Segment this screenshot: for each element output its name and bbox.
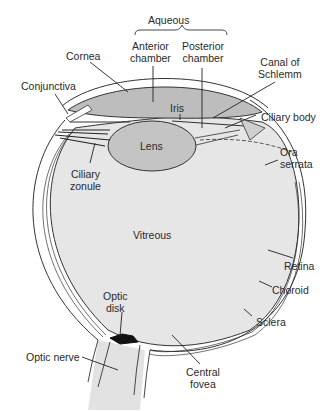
label-vitreous: Vitreous xyxy=(133,229,171,241)
label-sclera: Sclera xyxy=(256,316,286,328)
label-posterior-chamber: Posteriorchamber xyxy=(182,40,224,64)
optic-nerve-outer-right xyxy=(144,350,150,398)
label-aqueous: Aqueous xyxy=(148,14,189,26)
label-zonule-line1: Ciliary xyxy=(71,168,100,180)
label-cornea: Cornea xyxy=(66,50,100,62)
leader-cornea xyxy=(90,62,128,92)
aqueous-brace xyxy=(135,25,227,35)
aqueous-chamber xyxy=(68,87,262,118)
label-choroid: Choroid xyxy=(272,284,309,296)
label-lens: Lens xyxy=(140,140,163,152)
label-posterior-chamber-line1: Posterior xyxy=(182,40,224,52)
label-conjunctiva: Conjunctiva xyxy=(21,80,76,92)
label-canal-of-schlemm: Canal ofSchlemm xyxy=(258,56,302,80)
label-ora-serrata: Oraserrata xyxy=(280,146,313,170)
label-optic-nerve: Optic nerve xyxy=(26,351,80,363)
label-ora-line2: serrata xyxy=(280,158,313,170)
label-ora-line1: Ora xyxy=(280,146,298,158)
label-posterior-chamber-line2: chamber xyxy=(183,52,224,64)
label-iris: Iris xyxy=(170,102,184,114)
label-fovea-line1: Central xyxy=(186,366,220,378)
leader-conjunctiva xyxy=(55,94,68,114)
label-optic-disk-line1: Optic xyxy=(103,290,128,302)
label-fovea-line2: fovea xyxy=(190,378,216,390)
label-ciliary-zonule: Ciliaryzonule xyxy=(70,168,101,192)
optic-nerve-shape xyxy=(88,340,145,410)
label-anterior-chamber-line2: chamber xyxy=(130,52,171,64)
label-canal-line2: Schlemm xyxy=(258,68,302,80)
label-optic-disk: Opticdisk xyxy=(103,290,128,314)
label-anterior-chamber: Anteriorchamber xyxy=(130,40,171,64)
label-canal-line1: Canal of xyxy=(260,56,299,68)
label-anterior-chamber-line1: Anterior xyxy=(132,40,169,52)
label-ciliary-body: Ciliary body xyxy=(261,111,316,123)
label-optic-disk-line2: disk xyxy=(106,302,125,314)
label-central-fovea: Centralfovea xyxy=(186,366,220,390)
label-retina: Retina xyxy=(284,260,314,272)
label-zonule-line2: zonule xyxy=(70,180,101,192)
